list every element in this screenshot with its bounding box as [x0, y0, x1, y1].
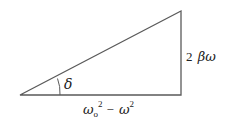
vertical-side-label: 2 βω	[186, 49, 216, 64]
angle-arc	[58, 79, 61, 96]
right-triangle	[20, 11, 181, 95]
horizontal-side-label: ωo2−ω2	[83, 99, 134, 119]
angle-delta-label: δ	[64, 76, 72, 92]
triangle-diagram: δ 2 βω ωo2−ω2	[0, 0, 226, 122]
